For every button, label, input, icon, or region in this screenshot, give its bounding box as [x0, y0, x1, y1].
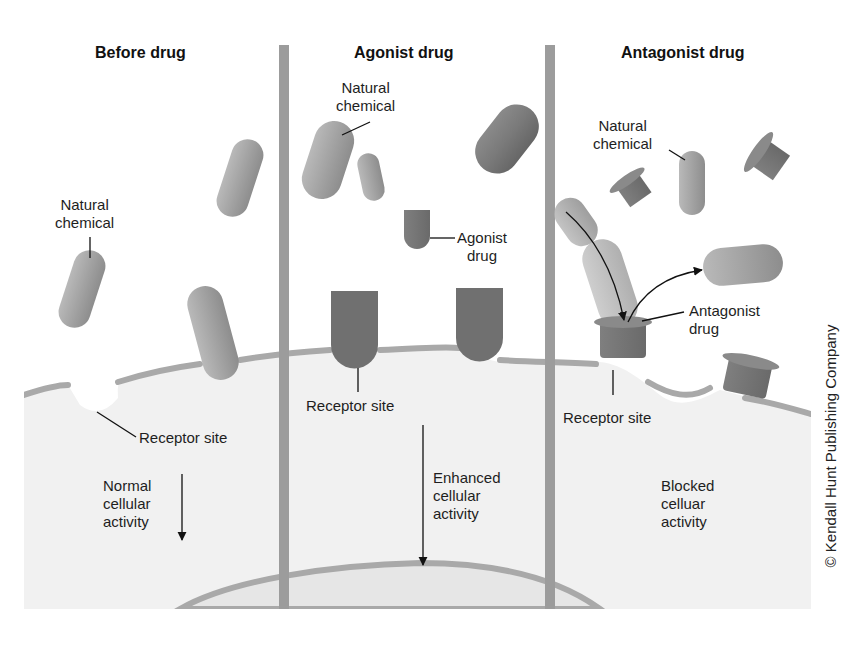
natural-chemical-pill: [701, 243, 784, 288]
natural-chemical-pill: [355, 151, 386, 203]
label-pointer: [669, 150, 685, 160]
panel-divider-2: [545, 45, 555, 609]
natural-chemical-pill: [679, 151, 705, 215]
agonist-drug-molecule: [404, 210, 430, 249]
natural-chemical-pill: [54, 246, 109, 332]
label-receptor-site: Receptor site: [139, 429, 227, 447]
antagonist-cap: [740, 129, 795, 188]
label-natural-chemical: Natural chemical: [55, 196, 114, 232]
copyright-notice: © Kendall Hunt Publishing Company: [822, 325, 839, 568]
natural-chemical-pill: [297, 116, 360, 204]
label-receptor-site: Receptor site: [306, 397, 394, 415]
label-natural-chemical: Natural chemical: [336, 79, 395, 115]
antagonist-bound-receptor: [594, 316, 652, 358]
label-agonist-drug: Agonist drug: [457, 229, 507, 265]
natural-chemical-pill: [212, 135, 267, 221]
panel-title-before: Before drug: [95, 44, 186, 62]
label-receptor-site: Receptor site: [563, 409, 651, 427]
panel-divider-1: [279, 45, 289, 609]
receptor-with-agonist: [456, 288, 503, 362]
panel-title-antagonist: Antagonist drug: [621, 44, 745, 62]
label-pointer: [642, 312, 684, 321]
antagonist-cap: [607, 164, 658, 212]
receptor-with-agonist: [331, 291, 378, 369]
label-antagonist-drug: Antagonist drug: [689, 302, 760, 338]
panel-antagonist-drug: [548, 129, 795, 401]
panel-title-agonist: Agonist drug: [354, 44, 454, 62]
drug-capsule: [466, 96, 547, 183]
drug-action-diagram: Before drug Agonist drug Antagonist drug…: [0, 0, 851, 649]
label-activity: Enhanced cellular activity: [433, 469, 501, 523]
label-activity: Normal cellular activity: [103, 477, 151, 531]
label-natural-chemical: Natural chemical: [593, 117, 652, 153]
label-activity: Blocked celluar activity: [661, 477, 714, 531]
